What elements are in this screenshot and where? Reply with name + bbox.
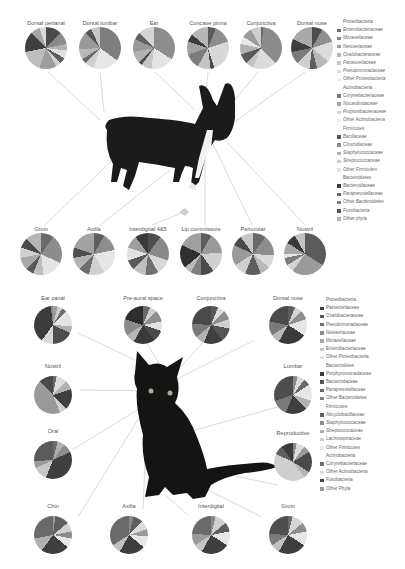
legend-item: Pseudomonadaceae [320,321,405,329]
pie-chart [133,27,175,69]
legend-item: Streptococcaceae [320,427,405,435]
legend-swatch-icon [320,421,324,425]
pie-chart [269,516,307,554]
cat-legend-list: ProteobacteriaPasteurellaceaeOxalobacter… [320,296,405,493]
dog-legend-list: ProteobacteriaEnterobacteriaceaeMoraxell… [337,18,405,223]
pie-dorsal-nose: Dorsal nose [280,20,344,69]
pie-label: Nostril [273,226,337,233]
legend-label: Other Phyla [326,485,350,493]
legend-item: Corynebacteriaceae [337,92,405,100]
pie-nostril-cat: Nostril [25,363,81,414]
legend-swatch-icon [320,487,324,491]
dog-photo [95,78,245,218]
pie-chart [34,441,72,479]
legend-swatch-icon [320,372,324,376]
legend-swatch-icon [337,94,341,98]
pie-dorsal-nose-cat: Dorsal nose [260,295,316,344]
legend-label: Other Bacteroidetes [343,198,384,206]
legend-swatch-icon [320,323,324,327]
pie-chart [269,306,307,344]
legend-swatch-icon [337,29,341,33]
legend-item: Bacteroidaceae [337,182,405,190]
legend-swatch-icon [320,462,324,466]
pie-lumbar: Lumbar [265,363,321,414]
legend-label: Fusobacteria [326,476,353,484]
pie-chart [240,27,282,69]
legend-swatch-icon [337,168,341,172]
cat-legend: ProteobacteriaPasteurellaceaeOxalobacter… [320,296,405,493]
pie-label: Axilla [101,503,157,510]
pie-label: Oral [25,428,81,435]
legend-swatch-icon [320,430,324,434]
legend-label: Fusobacteria [343,207,370,215]
legend-label: Paraprevotellaceae [326,386,366,394]
legend-item: Moraxellaceae [320,337,405,345]
legend-item: Other Phyla [320,485,405,493]
legend-swatch-icon [337,184,341,188]
pie-chart [34,306,72,344]
legend-label: Other Proteobacteria [326,353,369,361]
pie-chart [34,376,72,414]
pie-chart [127,233,169,275]
legend-swatch-icon [320,307,324,311]
legend-label: Corynebacteriaceae [343,92,384,100]
legend-label: Neisseriaceae [343,43,372,51]
legend-label: Other Actinobacteria [343,116,385,124]
pie-chart [274,376,312,414]
legend-item: Pasteurellaceae [320,304,405,312]
legend-label: Staphylococcaceae [326,419,366,427]
legend-item: Clostridiaceae [337,141,405,149]
pie-interdigital-cat: Interdigital [183,503,239,554]
legend-swatch-icon [320,479,324,483]
legend-group-header: Actinobacteria [337,84,405,92]
pie-label: Pre-aural space [115,295,171,302]
legend-label: Bacillaceae [343,133,367,141]
legend-label: Moraxellaceae [326,337,356,345]
legend-label: Alicyclobacillaceae [326,411,365,419]
legend-item: Other Proteobacteria [337,75,405,83]
legend-item: Streptococcaceae [337,157,405,165]
legend-item: Corynebacteriaceae [320,460,405,468]
legend-swatch-icon [337,102,341,106]
legend-swatch-icon [337,119,341,123]
legend-swatch-icon [320,471,324,475]
legend-group-header: Firmicutes [320,403,405,411]
pie-chart [25,27,67,69]
legend-label: Pasteurellaceae [343,59,376,67]
legend-label: Oxalobacteraceae [326,312,363,320]
pie-label: Lumbar [265,363,321,370]
legend-label: Lachnospiraceae [326,435,361,443]
pie-chart [192,306,230,344]
pie-chin: Chin [25,503,81,554]
pie-chart [291,27,333,69]
legend-label: Bacteroidaceae [343,182,375,190]
pie-chart [180,233,222,275]
legend-label: Pseudomonadaceae [343,67,385,75]
pie-label: Dorsal nose [260,295,316,302]
pie-nostril-dog: Nostril [273,226,337,275]
pie-chart [187,27,229,69]
legend-item: Oxalobacteraceae [337,51,405,59]
legend-swatch-icon [337,143,341,147]
legend-group-header: Bacteroidetes [320,362,405,370]
pie-chart [73,233,115,275]
legend-item: Bacillaceae [337,133,405,141]
pie-chart [110,516,148,554]
legend-label: Clostridiaceae [343,141,372,149]
pie-chart [79,27,121,69]
legend-label: Neisseriaceae [326,329,355,337]
legend-swatch-icon [337,193,341,197]
legend-label: Other Bacteroidetes [326,394,367,402]
legend-item: Staphylococcaceae [320,419,405,427]
legend-item: Other phyla [337,215,405,223]
legend-swatch-icon [320,380,324,384]
legend-item: Oxalobacteraceae [320,312,405,320]
legend-group-header: Actinobacteria [320,452,405,460]
legend-swatch-icon [320,438,324,442]
cat-photo [115,345,280,505]
legend-item: Nocardioidaceae [337,100,405,108]
legend-label: Oxalobacteraceae [343,51,380,59]
legend-item: Staphylococcaceae [337,149,405,157]
legend-swatch-icon [337,201,341,205]
legend-item: Other Actinobacteria [337,116,405,124]
